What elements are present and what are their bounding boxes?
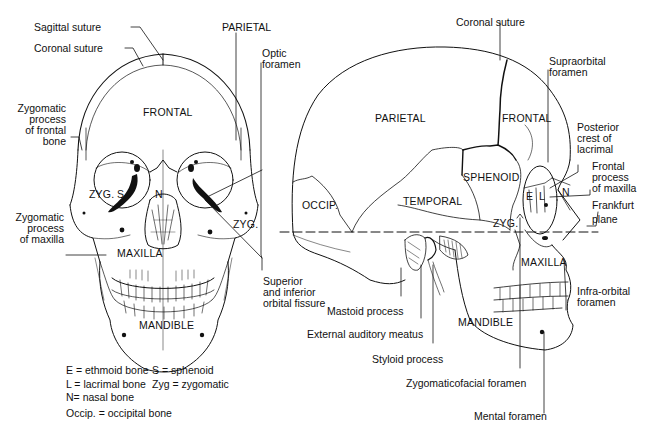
bone-maxilla-lateral: MAXILLA [521, 256, 567, 268]
bone-parietal-lateral: PARIETAL [375, 112, 426, 124]
bone-nasal-front: N [155, 188, 163, 200]
bone-sphenoid-front: S. [117, 188, 127, 200]
label-zygomaticofacial-foramen: Zygomaticofacial foramen [406, 378, 526, 389]
label-parietal-front: PARIETAL [222, 22, 271, 33]
bone-sphenoid-lateral: SPHENOID [463, 171, 519, 183]
label-coronal-suture-front: Coronal suture [34, 43, 103, 54]
bone-lacrimal-lateral: L [539, 190, 545, 202]
skull-diagram: Sagittal suture Coronal suture PARIETAL … [0, 0, 649, 439]
front-leader-lines [66, 27, 262, 270]
bone-nasal-lateral: N [562, 186, 570, 198]
label-coronal-suture-lateral: Coronal suture [456, 17, 525, 28]
label-infraorbital-foramen: Infra-orbital foramen [577, 286, 630, 308]
label-posterior-crest-lacrimal: Posterior crest of lacrimal [577, 122, 619, 155]
bone-occipital-lateral: OCCIP. [302, 199, 338, 211]
label-mastoid-process: Mastoid process [327, 306, 403, 317]
bone-zyg-right: ZYG. [233, 218, 258, 230]
bone-frontal-front: FRONTAL [143, 106, 193, 118]
label-frankfurt-plane: Frankfurt plane [592, 198, 634, 226]
label-sagittal-suture: Sagittal suture [34, 22, 101, 33]
label-zygomatic-process-frontal: Zygomatic process of frontal bone [6, 103, 66, 147]
bone-zygomatic-lateral: ZYG. [493, 217, 518, 229]
label-mental-foramen: Mental foramen [474, 411, 547, 422]
label-zygomatic-process-maxilla: Zygomatic process of maxilla [6, 212, 64, 245]
bone-ethmoid-lateral: E [526, 190, 533, 202]
abbreviation-legend: E = ethmoid bone S = sphenoid L = lacrim… [66, 364, 229, 420]
bone-maxilla-front: MAXILLA [117, 247, 163, 259]
label-optic-foramen: Optic foramen [262, 48, 301, 70]
legend-row: E = ethmoid bone S = sphenoid [66, 364, 229, 378]
label-supraorbital-foramen: Supraorbital foramen [549, 56, 606, 78]
bone-zyg-left: ZYG. [89, 188, 114, 200]
bone-temporal-lateral: TEMPORAL [403, 195, 462, 207]
label-external-auditory-meatus: External auditory meatus [307, 329, 423, 340]
label-styloid-process: Styloid process [372, 354, 443, 365]
legend-row: Occip. = occipital bone [66, 407, 229, 421]
legend-row: N= nasal bone [66, 391, 229, 405]
label-frontal-process-maxilla: Frontal process of maxilla [592, 161, 636, 194]
bone-mandible-front: MANDIBLE [139, 319, 194, 331]
label-orbital-fissure: Superior and inferior orbital fissure [263, 276, 325, 309]
bone-frontal-lateral: FRONTAL [502, 112, 552, 124]
legend-row: L = lacrimal bone Zyg = zygomatic [66, 378, 229, 392]
bone-mandible-lateral: MANDIBLE [458, 316, 513, 328]
